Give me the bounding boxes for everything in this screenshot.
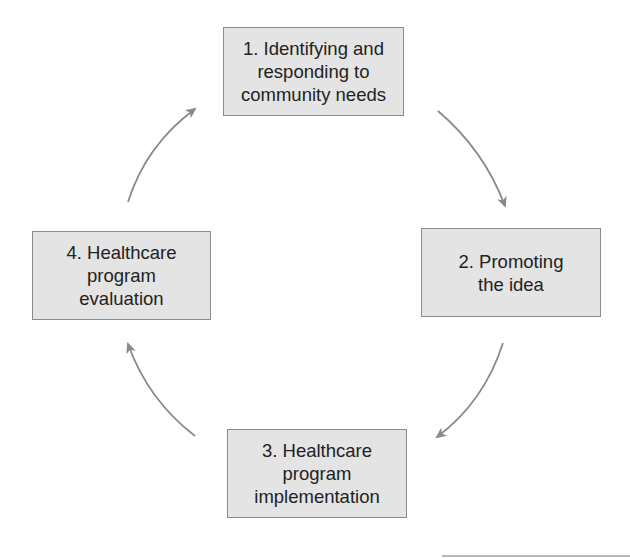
step-box-promoting-idea: 2. Promoting the idea	[421, 228, 601, 317]
cycle-diagram: 1. Identifying and responding to communi…	[0, 0, 630, 558]
step-box-program-implementation: 3. Healthcare program implementation	[227, 429, 407, 518]
step-label: 4. Healthcare program evaluation	[66, 241, 176, 310]
arrow-3-to-4	[128, 344, 195, 436]
step-label: 1. Identifying and responding to communi…	[241, 37, 386, 106]
divider-line	[442, 555, 630, 557]
step-box-program-evaluation: 4. Healthcare program evaluation	[32, 231, 211, 320]
step-label: 3. Healthcare program implementation	[254, 439, 379, 508]
step-label: 2. Promoting the idea	[459, 250, 564, 296]
arrow-1-to-2	[438, 111, 505, 206]
step-box-identifying-needs: 1. Identifying and responding to communi…	[223, 27, 404, 116]
arrow-4-to-1	[128, 109, 195, 202]
arrow-2-to-3	[437, 343, 503, 437]
